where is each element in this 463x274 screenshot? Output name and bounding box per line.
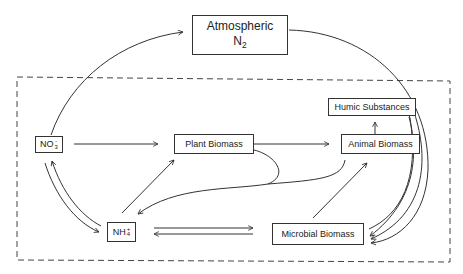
arrow-microbial-to-animal — [313, 163, 367, 218]
arrow-animal-to-microbial — [371, 112, 422, 239]
node-nitrate: NO -3 — [35, 136, 63, 153]
node-microbial-biomass: Microbial Biomass — [272, 223, 364, 245]
line-animal-to-merge — [268, 160, 345, 184]
node-humic-substances: Humic Substances — [328, 98, 416, 116]
n2-label: N2 — [233, 34, 246, 51]
node-animal-biomass: Animal Biomass — [341, 134, 420, 154]
arrow-no3-to-nh4 — [45, 163, 99, 232]
arrow-nh4-to-plant — [122, 160, 174, 213]
atmospheric-label: Atmospheric — [207, 19, 274, 34]
node-atmospheric-n2: Atmospheric N2 — [192, 15, 288, 55]
arrow-no3-to-n2 — [51, 32, 183, 135]
node-plant-biomass: Plant Biomass — [174, 134, 254, 154]
node-ammonium: NH +4 — [107, 222, 136, 242]
arrow-plant-to-nh4 — [138, 150, 279, 214]
